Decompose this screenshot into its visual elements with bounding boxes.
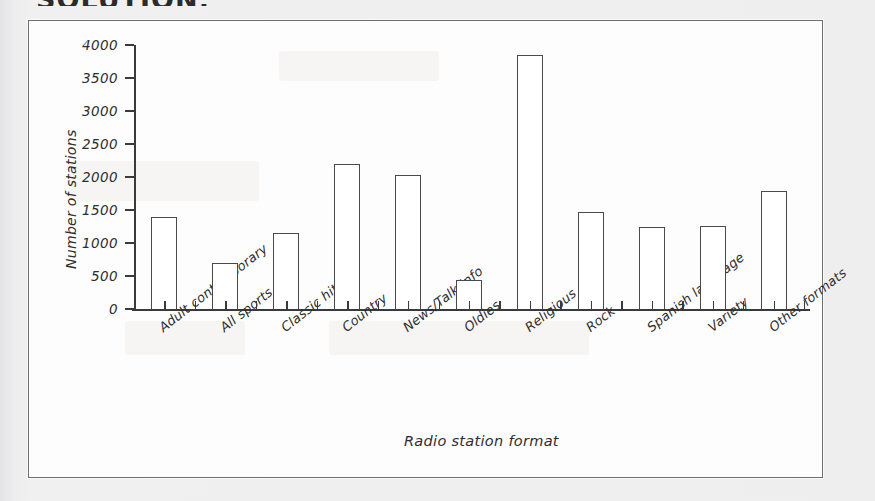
y-tick-mark bbox=[125, 242, 134, 244]
x-tick-mark bbox=[195, 301, 196, 309]
y-tick-mark bbox=[125, 209, 134, 211]
x-tick-mark bbox=[652, 301, 653, 309]
x-tick-mark bbox=[225, 301, 226, 309]
x-tick-mark bbox=[164, 301, 165, 309]
x-tick-mark bbox=[439, 301, 440, 309]
x-tick-mark bbox=[286, 301, 287, 309]
x-tick-mark bbox=[499, 301, 500, 309]
y-tick-mark bbox=[125, 110, 134, 112]
x-axis-title: Radio station format bbox=[404, 433, 559, 449]
y-tick-label: 3000 bbox=[56, 103, 118, 119]
figure-frame: Number of stations Radio station format … bbox=[28, 20, 823, 478]
solution-heading: SOLUTION: bbox=[36, 0, 210, 6]
x-tick-mark bbox=[560, 301, 561, 309]
x-tick-mark bbox=[591, 301, 592, 309]
x-tick-mark bbox=[743, 301, 744, 309]
bar bbox=[639, 227, 665, 310]
bar bbox=[273, 233, 299, 309]
x-tick-mark bbox=[682, 301, 683, 309]
bar bbox=[395, 175, 421, 309]
x-tick-mark bbox=[621, 301, 622, 309]
y-tick-mark bbox=[125, 308, 134, 310]
y-tick-label: 3500 bbox=[56, 70, 118, 86]
x-tick-mark bbox=[408, 301, 409, 309]
y-tick-label: 2500 bbox=[56, 136, 118, 152]
y-tick-mark bbox=[125, 77, 134, 79]
bar-chart-plot: Number of stations Radio station format … bbox=[29, 21, 824, 479]
y-tick-label: 1000 bbox=[56, 235, 118, 251]
y-axis-line bbox=[134, 45, 136, 311]
x-tick-mark bbox=[469, 301, 470, 309]
y-tick-label: 1500 bbox=[56, 202, 118, 218]
x-tick-mark bbox=[774, 301, 775, 309]
x-tick-mark bbox=[134, 301, 135, 309]
x-tick-mark bbox=[713, 301, 714, 309]
y-tick-mark bbox=[125, 143, 134, 145]
y-tick-label: 4000 bbox=[56, 37, 118, 53]
bar bbox=[151, 217, 177, 309]
y-tick-mark bbox=[125, 44, 134, 46]
x-tick-mark bbox=[530, 301, 531, 309]
bar bbox=[517, 55, 543, 309]
x-tick-mark bbox=[347, 301, 348, 309]
x-tick-mark bbox=[256, 301, 257, 309]
y-tick-mark bbox=[125, 176, 134, 178]
bar bbox=[761, 191, 787, 309]
x-tick-mark bbox=[317, 301, 318, 309]
bar bbox=[700, 226, 726, 309]
x-tick-mark bbox=[378, 301, 379, 309]
y-tick-label: 2000 bbox=[56, 169, 118, 185]
y-tick-label: 0 bbox=[56, 301, 118, 317]
bar bbox=[334, 164, 360, 309]
y-tick-label: 500 bbox=[56, 268, 118, 284]
y-tick-mark bbox=[125, 275, 134, 277]
bar bbox=[578, 212, 604, 309]
